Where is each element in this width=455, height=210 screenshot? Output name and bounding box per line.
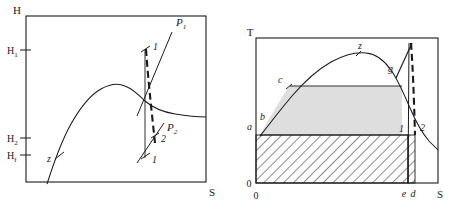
y-axis-origin-label: 0: [247, 178, 252, 189]
point-c-label: c: [278, 74, 283, 85]
saturation-curve: [47, 84, 206, 184]
pressure-line-p2-label: P2: [166, 121, 178, 136]
plot-frame: [26, 16, 206, 182]
state-point-2-label: 2: [420, 122, 425, 133]
state-point-1-lower-label: 1: [152, 154, 157, 165]
tick-label-hf: Hf: [7, 150, 17, 164]
superheat-line: [396, 43, 412, 78]
state-point-markers: [55, 46, 159, 159]
tick-label-h2: H2: [7, 133, 18, 147]
sensible-heat-region: [256, 135, 408, 183]
x-axis-label: S: [209, 186, 215, 198]
point-z-label: z: [46, 153, 51, 164]
state-point-1-label: 1: [399, 123, 404, 134]
y-axis-label: H: [13, 4, 21, 16]
state-point-1-upper-label: 1: [153, 41, 158, 52]
plot-border: [26, 16, 206, 182]
point-z-label: z: [357, 40, 362, 51]
sensible-heat-sliver: [408, 135, 415, 183]
x-axis-label: S: [437, 188, 443, 200]
actual-expansion-dashed-curve: [411, 43, 415, 135]
pressure-line-p1-label: P1: [175, 16, 186, 31]
x-axis-origin-label: 0: [254, 190, 259, 201]
x-tick-label-e: e: [402, 188, 407, 199]
marker-point-1-lower: [141, 153, 150, 159]
point-g-label: g: [388, 63, 393, 74]
point-b-label: b: [260, 111, 265, 122]
point-markers: [286, 51, 361, 89]
tick-label-h1: H1: [7, 45, 18, 59]
latent-heat-region: [260, 86, 402, 135]
state-point-2-label: 2: [161, 133, 166, 144]
point-a-label: a: [247, 121, 252, 132]
right-chart-panel: T 0 0 S e d a b c z g 1 2: [228, 0, 455, 210]
y-tick-labels: H1 H2 Hf: [7, 45, 18, 164]
figure-root: H S H1 H2 Hf: [0, 0, 455, 210]
y-axis-label: T: [247, 26, 254, 38]
left-chart-panel: H S H1 H2 Hf: [0, 0, 228, 210]
t-s-diagram-svg: T 0 0 S e d a b c z g 1 2: [228, 0, 455, 210]
h-s-diagram-svg: H S H1 H2 Hf: [0, 0, 228, 210]
actual-expansion-dashed-curve: [146, 49, 155, 143]
isobar-line-p2: [137, 123, 164, 163]
x-tick-label-d: d: [411, 188, 417, 199]
